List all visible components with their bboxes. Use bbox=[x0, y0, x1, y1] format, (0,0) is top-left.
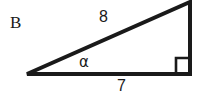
angle-alpha-label: α bbox=[79, 55, 89, 70]
hypotenuse-length-label: 8 bbox=[99, 9, 108, 25]
right-angle-marker-icon bbox=[176, 58, 190, 72]
vertex-b-label: B bbox=[10, 14, 21, 31]
base-length-label: 7 bbox=[117, 78, 126, 94]
right-triangle-shape bbox=[27, 2, 190, 74]
triangle-outline bbox=[27, 2, 190, 74]
triangle-figure: B 8 α 7 bbox=[0, 0, 207, 98]
